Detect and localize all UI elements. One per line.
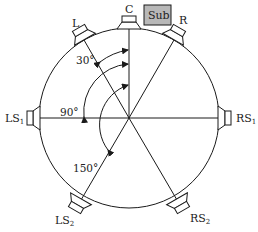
speaker-label-c: C (125, 3, 133, 16)
angle-label-30: 30° (76, 54, 95, 66)
line-l (84, 40, 129, 118)
arc-30 (100, 50, 128, 62)
speaker-ls2-icon (64, 193, 91, 216)
speaker-label-ls2: LS2 (55, 214, 74, 228)
line-r (129, 40, 174, 118)
speaker-label-rs2: RS2 (190, 212, 210, 226)
arc-90 (84, 64, 128, 117)
subwoofer-label: Sub (148, 9, 170, 22)
speaker-label-l: L (72, 17, 80, 30)
speaker-c-icon (117, 16, 141, 29)
speaker-rs1-icon (218, 106, 231, 130)
line-rs2 (129, 118, 177, 200)
angle-label-150: 150° (73, 162, 98, 174)
speaker-label-r: R (179, 14, 188, 27)
speaker-ls1-icon (27, 106, 40, 130)
speaker-layout-diagram: 30° 90° 150° C L R LS1 RS1 LS2 RS2 (0, 0, 258, 232)
speaker-label-ls1: LS1 (5, 112, 24, 126)
speaker-label-rs1: RS1 (236, 112, 256, 126)
line-ls2 (81, 118, 129, 200)
angle-label-90: 90° (60, 106, 79, 118)
